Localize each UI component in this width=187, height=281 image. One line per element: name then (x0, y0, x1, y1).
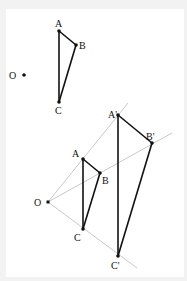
label-c-small: C (74, 232, 81, 243)
segment-bc (59, 45, 76, 102)
point-c-small (81, 227, 85, 231)
dilation-construction: O A B C A' B' C' (34, 103, 172, 271)
label-b-small: B (102, 175, 109, 186)
point-c-prime (116, 254, 120, 258)
segment-ab-small (83, 159, 100, 173)
label-b-prime: B' (146, 131, 155, 142)
label-c: C (55, 105, 62, 116)
label-a-prime: A' (108, 109, 117, 120)
dilation-diagram: A B C O O A B C A' B' C' (0, 0, 187, 281)
segment-ab (59, 31, 76, 45)
point-o-center (47, 201, 50, 204)
label-a: A (55, 18, 63, 29)
label-o-center: O (34, 197, 41, 208)
point-a (57, 29, 61, 33)
label-a-small: A (72, 148, 80, 159)
point-o (22, 73, 26, 77)
label-o: O (9, 70, 16, 81)
label-c-prime: C' (111, 260, 120, 271)
point-b (74, 43, 78, 47)
point-a-small (81, 157, 85, 161)
point-c (57, 100, 61, 104)
original-triangle: A B C O (9, 18, 86, 116)
label-b: B (79, 40, 86, 51)
